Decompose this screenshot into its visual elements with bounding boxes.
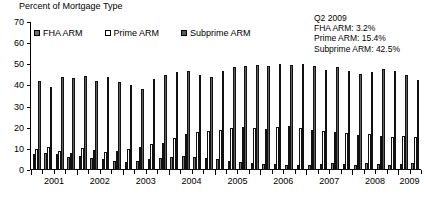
x-axis-quarter-tick xyxy=(421,170,422,174)
bar-subprime-arm xyxy=(290,65,293,170)
bar-group xyxy=(203,22,214,170)
x-axis-quarter-tick xyxy=(42,170,43,174)
bar-subprime-arm xyxy=(417,80,420,170)
x-axis-labels: 200120022003200420052006200720082009 xyxy=(0,176,424,190)
bar-subprime-arm xyxy=(348,71,351,170)
bar-group xyxy=(318,22,329,170)
x-axis-quarter-tick xyxy=(65,170,66,174)
y-axis-tick-label: 10 xyxy=(14,144,24,153)
bar-subprime-arm xyxy=(233,67,236,170)
bar-group xyxy=(88,22,99,170)
bar-group xyxy=(387,22,398,170)
x-axis-quarter-tick xyxy=(88,170,89,174)
x-axis-year-label: 2007 xyxy=(319,176,339,186)
bar-subprime-arm xyxy=(187,71,190,170)
bar-group xyxy=(111,22,122,170)
x-axis-quarter-tick xyxy=(180,170,181,174)
x-axis-quarter-tick xyxy=(192,170,193,174)
x-axis-year-tick xyxy=(352,170,353,175)
bar-subprime-arm xyxy=(267,66,270,170)
bar-group xyxy=(352,22,363,170)
x-axis-quarter-tick xyxy=(295,170,296,174)
bar-group xyxy=(283,22,294,170)
bar-subprime-arm xyxy=(61,77,64,170)
bar-subprime-arm xyxy=(371,72,374,170)
bar-group xyxy=(272,22,283,170)
bar-group xyxy=(409,22,420,170)
bar-subprime-arm xyxy=(72,78,75,170)
bar-subprime-arm xyxy=(50,87,53,171)
bar-subprime-arm xyxy=(118,82,121,170)
bar-groups xyxy=(31,22,421,170)
x-axis-year-tick xyxy=(215,170,216,175)
bar-group xyxy=(329,22,340,170)
x-axis-quarter-tick xyxy=(237,170,238,174)
bar-group xyxy=(260,22,271,170)
bar-group xyxy=(134,22,145,170)
bar-group xyxy=(42,22,53,170)
bar-subprime-arm xyxy=(382,69,385,170)
x-axis-year-label: 2003 xyxy=(136,176,156,186)
x-axis-year-label: 2005 xyxy=(227,176,247,186)
x-axis-year-label: 2002 xyxy=(90,176,110,186)
bar-group xyxy=(123,22,134,170)
bar-group xyxy=(364,22,375,170)
bar-subprime-arm xyxy=(153,79,156,170)
x-axis-quarter-tick xyxy=(100,170,101,174)
bar-subprime-arm xyxy=(336,67,339,170)
bar-group xyxy=(306,22,317,170)
x-axis-quarter-tick xyxy=(387,170,388,174)
x-axis-year-label: 2004 xyxy=(182,176,202,186)
chart-axis-title: Percent of Mortgage Type xyxy=(19,1,122,11)
x-axis-year-label: 2006 xyxy=(273,176,293,186)
x-axis-quarter-tick xyxy=(283,170,284,174)
y-axis-tick-label: 40 xyxy=(14,81,24,90)
bar-subprime-arm xyxy=(313,66,316,170)
x-axis-year-label: 2009 xyxy=(400,176,420,186)
y-axis-tick-label: 20 xyxy=(14,123,24,132)
x-axis-quarter-tick xyxy=(410,170,411,174)
bar-group xyxy=(77,22,88,170)
bar-group xyxy=(226,22,237,170)
bar-subprime-arm xyxy=(222,71,225,170)
bar-subprime-arm xyxy=(130,85,133,170)
bar-subprime-arm xyxy=(84,76,87,170)
bar-subprime-arm xyxy=(199,75,202,170)
bar-group xyxy=(341,22,352,170)
x-axis-year-tick xyxy=(169,170,170,175)
bar-subprime-arm xyxy=(107,77,110,170)
mortgage-arm-share-chart: Percent of Mortgage Type FHA ARM Prime A… xyxy=(0,0,424,200)
bar-group xyxy=(169,22,180,170)
bar-subprime-arm xyxy=(244,66,247,170)
bar-group xyxy=(157,22,168,170)
y-axis-tick-label: 0 xyxy=(19,166,24,175)
bar-subprime-arm xyxy=(210,77,213,170)
x-axis-quarter-tick xyxy=(375,170,376,174)
x-axis-year-label: 2001 xyxy=(44,176,64,186)
x-axis-quarter-tick xyxy=(134,170,135,174)
x-axis-quarter-tick xyxy=(341,170,342,174)
y-axis-labels: 010203040506070 xyxy=(0,14,27,174)
bar-group xyxy=(65,22,76,170)
x-axis-ticks xyxy=(31,170,421,175)
x-axis-year-tick xyxy=(77,170,78,175)
bar-group xyxy=(295,22,306,170)
x-axis-year-tick xyxy=(31,170,32,175)
x-axis-year-tick xyxy=(306,170,307,175)
bar-subprime-arm xyxy=(141,89,144,170)
bar-group xyxy=(375,22,386,170)
bar-subprime-arm xyxy=(325,70,328,170)
bar-group xyxy=(398,22,409,170)
x-axis-year-tick xyxy=(260,170,261,175)
bar-subprime-arm xyxy=(95,81,98,170)
x-axis-quarter-tick xyxy=(364,170,365,174)
y-axis-tick-label: 50 xyxy=(14,60,24,69)
y-axis-tick-label: 70 xyxy=(14,18,24,27)
x-axis-year-tick xyxy=(398,170,399,175)
x-axis-quarter-tick xyxy=(226,170,227,174)
bar-subprime-arm xyxy=(394,71,397,170)
y-axis-tick-label: 60 xyxy=(14,39,24,48)
bar-group xyxy=(237,22,248,170)
bar-group xyxy=(249,22,260,170)
bar-group xyxy=(31,22,42,170)
